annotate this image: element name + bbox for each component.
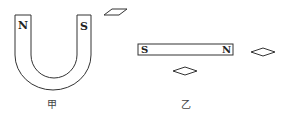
horseshoe-south-pole-label: S — [80, 20, 88, 33]
magnet-diagram: N S 甲 S N 乙 — [0, 0, 282, 121]
compass-needle-parallelogram-icon — [104, 9, 127, 15]
horseshoe-caption: 甲 — [47, 99, 57, 110]
horseshoe-magnet: N S 甲 — [15, 15, 91, 110]
bar-caption: 乙 — [181, 99, 191, 110]
compass-needle-right-diamond-icon — [251, 48, 275, 56]
bar-magnet: S N 乙 — [138, 44, 233, 110]
compass-needle-below-diamond-icon — [173, 67, 197, 75]
horseshoe-north-pole-label: N — [18, 19, 28, 32]
bar-south-pole-label: S — [141, 44, 148, 55]
bar-north-pole-label: N — [222, 44, 231, 55]
